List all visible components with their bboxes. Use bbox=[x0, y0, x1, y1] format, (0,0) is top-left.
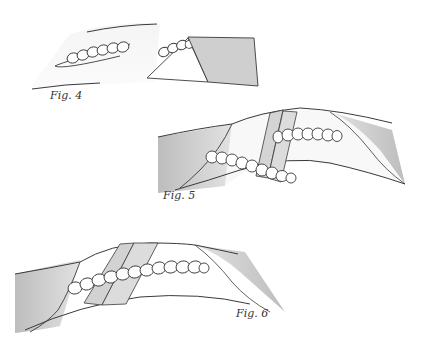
figure-5-label: Fig. 5 bbox=[163, 189, 195, 202]
figure-5 bbox=[158, 108, 405, 193]
figure-4 bbox=[30, 23, 258, 89]
illustration-canvas bbox=[0, 0, 429, 337]
figure-6-label: Fig. 6 bbox=[236, 307, 268, 320]
figure-4-label: Fig. 4 bbox=[50, 89, 82, 102]
